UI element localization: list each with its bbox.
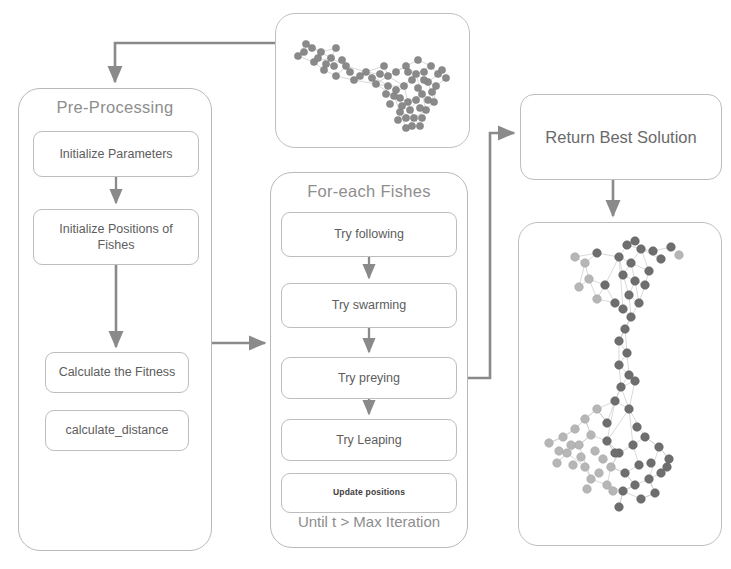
try-preying-box[interactable]: Try preying — [281, 357, 457, 399]
connector-preying-to-result — [468, 133, 514, 378]
return-best-solution-box[interactable]: Return Best Solution — [520, 94, 722, 180]
initialize-positions-label: Initialize Positions of Fishes — [40, 221, 192, 254]
initialize-parameters-label: Initialize Parameters — [59, 146, 172, 162]
input-network-graph-card — [275, 13, 470, 148]
clustered-network-graph-card — [518, 222, 722, 546]
update-positions-box[interactable]: Update positions — [281, 473, 457, 513]
for-each-fishes-title: For-each Fishes — [270, 182, 468, 201]
calculate-distance-label: calculate_distance — [66, 422, 169, 438]
update-positions-label: Update positions — [333, 487, 405, 498]
calculate-fitness-label: Calculate the Fitness — [59, 364, 176, 380]
try-following-label: Try following — [334, 226, 404, 242]
pre-processing-title: Pre-Processing — [18, 98, 212, 117]
clustered-network-graph — [519, 223, 721, 545]
loop-condition-label: Until t > Max Iteration — [270, 513, 468, 530]
try-leaping-box[interactable]: Try Leaping — [281, 419, 457, 461]
input-network-graph — [276, 14, 469, 147]
calculate-distance-box[interactable]: calculate_distance — [45, 410, 189, 451]
initialize-positions-box[interactable]: Initialize Positions of Fishes — [33, 209, 199, 265]
try-swarming-box[interactable]: Try swarming — [281, 283, 457, 328]
initialize-parameters-box[interactable]: Initialize Parameters — [33, 131, 199, 177]
try-preying-label: Try preying — [338, 370, 400, 386]
calculate-fitness-box[interactable]: Calculate the Fitness — [45, 352, 189, 393]
try-leaping-label: Try Leaping — [336, 432, 402, 448]
try-swarming-label: Try swarming — [332, 297, 407, 313]
connector-input-graph-to-preprocessing — [115, 43, 275, 82]
return-best-solution-label: Return Best Solution — [545, 126, 696, 148]
try-following-box[interactable]: Try following — [281, 212, 457, 257]
flowchart-canvas: Pre-Processing Initialize Parameters Ini… — [0, 0, 731, 569]
